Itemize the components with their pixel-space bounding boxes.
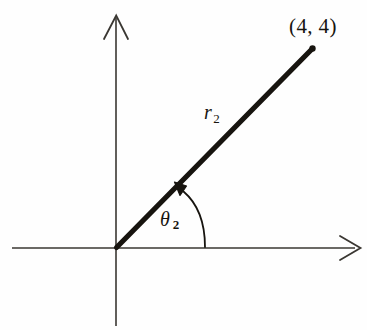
angle-label-symbol: θ <box>160 208 170 230</box>
radius-label-symbol: r <box>204 101 212 123</box>
radius-label-subscript: 2 <box>212 111 220 126</box>
x-axis <box>12 236 361 260</box>
angle-label: θ2 <box>160 209 179 231</box>
diagram-canvas <box>0 0 367 330</box>
angle-label-subscript: 2 <box>170 217 180 232</box>
radius-label: r2 <box>204 102 220 125</box>
y-axis <box>104 16 128 327</box>
point-marker-4-4 <box>309 45 315 51</box>
radius-vector-r2 <box>117 45 316 247</box>
radius-vector-line <box>117 49 313 248</box>
point-coordinate-label: (4, 4) <box>289 16 337 37</box>
angle-arc-path <box>184 192 206 248</box>
polar-coordinate-diagram: (4, 4) r2 θ2 <box>0 0 367 330</box>
